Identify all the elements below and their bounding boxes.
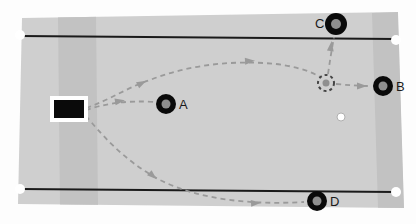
marker-a-center [162, 100, 171, 109]
small-white-dot [337, 113, 345, 121]
target-circle-center-dot [323, 80, 330, 87]
marker-label-a: A [179, 98, 188, 111]
marker-c-center [331, 19, 341, 29]
marker-label-c: C [315, 17, 324, 30]
top-boundary-line-right-endpoint-dot [391, 35, 401, 45]
small-dot-group [337, 113, 345, 121]
marker-d-center [313, 197, 322, 206]
diagram-canvas [0, 0, 416, 224]
marker-label-b: B [396, 80, 405, 93]
marker-label-d: D [330, 195, 339, 208]
bottom-boundary-line-left-endpoint-dot [15, 184, 25, 194]
origin-rectangle [54, 100, 84, 118]
origin-marker-group [50, 96, 88, 122]
top-boundary-line-left-endpoint-dot [15, 30, 25, 40]
diagram-scene: ABCD [0, 0, 416, 224]
marker-b-center [379, 82, 388, 91]
bottom-boundary-line-right-endpoint-dot [391, 187, 401, 197]
